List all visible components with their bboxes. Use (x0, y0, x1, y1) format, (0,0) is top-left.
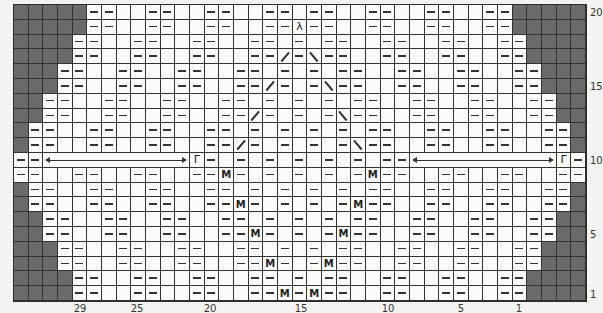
knit-cell (395, 123, 410, 138)
purl-cell (307, 242, 322, 257)
left-slant-decrease-icon (339, 110, 348, 120)
knit-cell (219, 64, 234, 79)
shaded-no-stitch-cell (557, 49, 572, 64)
shaded-no-stitch-cell (542, 242, 557, 257)
purl-dash-icon (310, 11, 318, 13)
make-one-cell: M (337, 227, 352, 242)
purl-dash-icon (339, 189, 347, 191)
shaded-no-stitch-cell (43, 5, 58, 20)
shaded-no-stitch-cell (571, 212, 586, 227)
purl-dash-icon (559, 129, 567, 131)
knit-cell (131, 197, 146, 212)
purl-cell (542, 183, 557, 198)
knit-cell (337, 212, 352, 227)
r-stitch-cell: Γ (557, 153, 572, 168)
purl-dash-icon (163, 129, 171, 131)
knit-cell (425, 35, 440, 50)
purl-dash-icon (178, 233, 186, 235)
purl-dash-icon (457, 263, 465, 265)
shaded-no-stitch-cell (571, 257, 586, 272)
purl-dash-icon (442, 189, 450, 191)
purl-cell (278, 138, 293, 153)
knit-cell (395, 197, 410, 212)
knit-cell (425, 257, 440, 272)
purl-cell (102, 227, 117, 242)
purl-dash-icon (266, 159, 274, 161)
purl-dash-icon (325, 159, 333, 161)
purl-cell (293, 212, 308, 227)
purl-dash-icon (427, 233, 435, 235)
purl-cell (337, 257, 352, 272)
purl-dash-icon (266, 115, 274, 117)
knit-cell (87, 109, 102, 124)
purl-dash-icon (339, 41, 347, 43)
knit-cell (131, 109, 146, 124)
knit-cell (117, 168, 132, 183)
knit-cell (175, 20, 190, 35)
knit-cell (175, 197, 190, 212)
purl-cell (146, 168, 161, 183)
knit-cell (454, 138, 469, 153)
shaded-no-stitch-cell (557, 109, 572, 124)
purl-dash-icon (339, 203, 347, 205)
purl-cell (322, 286, 337, 301)
purl-dash-icon (398, 159, 406, 161)
knit-cell (293, 242, 308, 257)
shaded-no-stitch-cell (29, 35, 44, 50)
knit-cell (395, 138, 410, 153)
purl-cell (29, 197, 44, 212)
purl-cell (410, 64, 425, 79)
purl-dash-icon (17, 174, 25, 176)
purl-cell (513, 64, 528, 79)
purl-cell (439, 286, 454, 301)
knit-cell (425, 271, 440, 286)
purl-dash-icon (310, 70, 318, 72)
knit-cell (190, 109, 205, 124)
right-slant-decrease-icon (236, 140, 245, 150)
knit-cell (469, 197, 484, 212)
purl-dash-icon (281, 85, 289, 87)
purl-cell (161, 138, 176, 153)
purl-cell (483, 197, 498, 212)
stitch-number-label: 25 (131, 303, 144, 313)
purl-dash-icon (149, 41, 157, 43)
knit-cell (425, 242, 440, 257)
knit-cell (542, 168, 557, 183)
knit-cell (381, 257, 396, 272)
knit-cell (205, 257, 220, 272)
knit-cell (234, 183, 249, 198)
purl-dash-icon (281, 144, 289, 146)
knit-cell (263, 242, 278, 257)
purl-cell (43, 183, 58, 198)
purl-cell (175, 109, 190, 124)
purl-dash-icon (427, 26, 435, 28)
purl-dash-icon (237, 218, 245, 220)
purl-dash-icon (413, 263, 421, 265)
purl-cell (513, 79, 528, 94)
purl-dash-icon (163, 100, 171, 102)
purl-dash-icon (501, 129, 509, 131)
purl-cell (498, 49, 513, 64)
purl-cell (175, 94, 190, 109)
knit-cell (234, 271, 249, 286)
purl-cell (498, 183, 513, 198)
purl-cell (307, 123, 322, 138)
purl-dash-icon (222, 144, 230, 146)
shaded-no-stitch-cell (571, 109, 586, 124)
purl-dash-icon (354, 100, 362, 102)
knit-cell (161, 286, 176, 301)
purl-dash-icon (339, 129, 347, 131)
purl-dash-icon (310, 129, 318, 131)
purl-dash-icon (383, 277, 391, 279)
purl-cell (146, 138, 161, 153)
purl-cell (43, 212, 58, 227)
shaded-no-stitch-cell (571, 242, 586, 257)
purl-cell (146, 49, 161, 64)
purl-dash-icon (545, 115, 553, 117)
purl-cell (307, 257, 322, 272)
purl-cell (381, 183, 396, 198)
shaded-no-stitch-cell (29, 271, 44, 286)
purl-dash-icon (501, 292, 509, 294)
purl-cell (278, 123, 293, 138)
purl-cell (29, 138, 44, 153)
